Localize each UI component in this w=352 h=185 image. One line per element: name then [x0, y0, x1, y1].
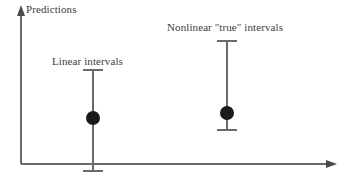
y-axis-label: Predictions: [26, 3, 77, 15]
nonlinear-intervals-annotation: Nonlinear "true" intervals: [167, 21, 283, 33]
prediction-intervals-figure: Predictions Linear intervals Nonlinear "…: [0, 0, 352, 185]
nonlinear-interval-marker: [217, 41, 237, 130]
linear-intervals-annotation: Linear intervals: [52, 55, 123, 67]
y-axis-arrowhead-icon: [17, 5, 25, 16]
linear-point-estimate-dot: [86, 111, 100, 125]
y-axis: [17, 5, 25, 164]
nonlinear-point-estimate-dot: [220, 106, 234, 120]
x-axis: [21, 160, 337, 168]
x-axis-arrowhead-icon: [326, 160, 337, 168]
linear-interval-marker: [83, 70, 103, 171]
